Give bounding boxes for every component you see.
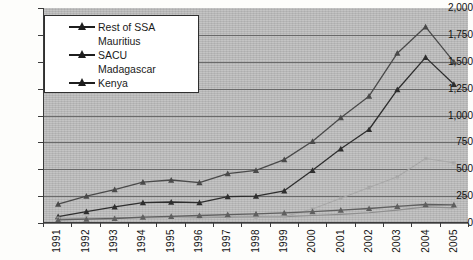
x-axis-tick-mark [440,223,441,227]
series-marker [339,197,342,200]
legend-marker-icon [69,77,95,89]
chart-legend: Rest of SSAMauritiusSACUMadagascarKenya [44,15,199,93]
y-axis-tick-mark [38,35,43,36]
series-marker [423,54,429,60]
y-axis-tick-mark [38,89,43,90]
x-axis-tick-label: 2005 [449,229,459,253]
x-axis-tick-label: 1992 [81,229,91,253]
y-axis-tick-mark [38,8,43,9]
x-axis-tick-mark [468,223,469,227]
x-axis-tick-mark [43,223,44,227]
y-axis-tick-mark [38,169,43,170]
x-axis-tick-label: 2000 [307,229,317,253]
x-axis-tick-label: 1991 [52,229,62,253]
legend-item: Kenya [45,76,198,90]
x-axis-tick-mark [213,223,214,227]
x-axis-tick-label: 1994 [137,229,147,253]
x-axis-tick-mark [241,223,242,227]
x-axis-tick-mark [71,223,72,227]
x-axis-tick-mark [128,223,129,227]
x-axis-tick-label: 1999 [279,229,289,253]
y-axis-tick-mark [38,142,43,143]
legend-item: Madagascar [45,62,198,76]
y-axis-tick-label: 500 [433,164,473,174]
series-marker [423,24,429,30]
line-chart: 2,0001,7501,5001,2501,0007505002500 1991… [0,0,473,260]
x-axis-line [43,222,468,223]
y-axis-tick-label: 1,000 [433,111,473,121]
y-axis-tick-label: 1,250 [433,84,473,94]
y-axis-tick-label: 1,750 [433,30,473,40]
y-axis-tick-mark [38,62,43,63]
x-axis-tick-label: 1993 [109,229,119,253]
x-axis-tick-mark [355,223,356,227]
x-axis-tick-mark [298,223,299,227]
x-axis-tick-mark [156,223,157,227]
x-axis-tick-label: 2004 [421,229,431,253]
x-axis-tick-mark [326,223,327,227]
x-axis-tick-label: 1996 [194,229,204,253]
y-axis-tick-mark [38,196,43,197]
series-marker [396,175,399,178]
x-axis-tick-label: 2001 [336,229,346,253]
legend-item-label: Mauritius [95,35,141,47]
y-axis-tick-mark [38,116,43,117]
legend-marker-icon [69,49,95,61]
legend-marker-icon [69,21,95,33]
y-axis-tick-label: 750 [433,137,473,147]
x-axis-tick-mark [383,223,384,227]
legend-item: Mauritius [45,34,198,48]
x-axis-tick-mark [100,223,101,227]
y-axis-tick-label: 250 [433,191,473,201]
legend-item: SACU [45,48,198,62]
x-axis-tick-label: 2003 [392,229,402,253]
gridline [44,223,468,224]
x-axis-tick-label: 1998 [251,229,261,253]
series-kenya [55,201,457,222]
legend-item-label: Rest of SSA [95,21,155,33]
series-marker [424,157,427,160]
x-axis-tick-mark [270,223,271,227]
legend-item: Rest of SSA [45,20,198,34]
x-axis-tick-label: 1997 [222,229,232,253]
y-axis-tick-label: 1,500 [433,57,473,67]
legend-item-label: Kenya [95,77,128,89]
series-marker [281,156,287,162]
series-marker [367,186,370,189]
x-axis-tick-label: 1995 [166,229,176,253]
x-axis-tick-label: 2002 [364,229,374,253]
y-axis-tick-label: 2,000 [433,3,473,13]
x-axis-tick-mark [411,223,412,227]
legend-item-label: SACU [95,49,127,61]
legend-item-label: Madagascar [95,63,156,75]
x-axis-tick-mark [185,223,186,227]
